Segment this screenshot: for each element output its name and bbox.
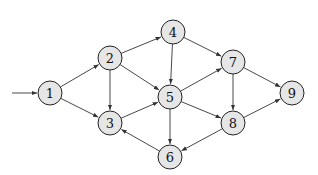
node-label: 8 [229,116,237,131]
edge-4-to-7 [184,37,222,56]
node-label: 5 [166,90,174,105]
edge-5-to-7 [180,68,221,91]
edge-8-to-6 [181,129,222,151]
nodes-layer: 123456789 [38,20,304,169]
edge-7-to-9 [244,68,281,87]
edge-8-to-9 [244,99,281,118]
edge-2-to-5 [120,65,159,90]
node-9: 9 [280,81,304,105]
edge-2-to-4 [121,37,161,53]
edge-1-to-2 [60,65,98,87]
node-label: 4 [169,25,177,40]
node-label: 3 [106,116,114,131]
node-6: 6 [158,145,182,169]
node-4: 4 [161,20,185,44]
edge-4-to-5 [171,44,173,84]
edge-6-to-3 [121,129,159,151]
node-7: 7 [221,50,245,74]
node-8: 8 [221,111,245,135]
node-1: 1 [38,81,62,105]
node-label: 2 [106,51,114,66]
edge-3-to-5 [121,102,158,118]
edge-1-to-3 [61,98,99,117]
node-3: 3 [98,111,122,135]
edge-5-to-8 [181,102,221,118]
node-label: 9 [288,86,296,101]
node-2: 2 [98,46,122,70]
node-5: 5 [158,85,182,109]
node-label: 1 [46,86,54,101]
node-label: 6 [166,150,174,165]
directed-graph: 123456789 [0,0,318,175]
node-label: 7 [229,55,237,70]
